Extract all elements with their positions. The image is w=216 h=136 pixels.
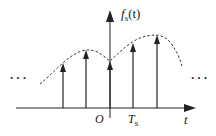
y-axis-label: fs(t) [121,6,140,23]
impulse-arrow-icon [154,35,160,44]
impulse-arrow-icon [107,61,113,70]
origin-label: O [95,112,104,127]
x-axis-arrow-icon [184,104,196,112]
sampled-signal-diagram: fs(t) O Ts t ··· ··· [0,0,216,136]
period-label: Ts [128,112,138,128]
x-axis-label: t [184,112,188,128]
x-axis [16,104,196,112]
impulse-arrow-icon [130,43,136,52]
ellipsis-right: ··· [190,70,209,88]
impulse-arrow-icon [83,50,89,59]
ellipsis-left: ··· [9,70,28,88]
y-axis-arrow-icon [106,10,114,22]
envelope-curve [40,35,182,84]
